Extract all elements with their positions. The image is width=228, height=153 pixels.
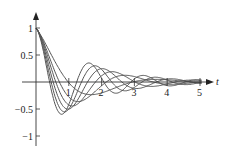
y-tick-label: −1 <box>22 131 33 142</box>
x-axis-label: t <box>216 76 219 87</box>
x-tick-label: 5 <box>197 87 202 98</box>
series-line <box>36 28 202 102</box>
damped-oscillation-chart: t 12345 10.5−0.5−1 <box>0 0 228 153</box>
curve-group <box>36 28 202 114</box>
x-tick-label: 1 <box>66 87 71 98</box>
y-tick-label: −0.5 <box>15 104 33 115</box>
x-tick-label: 3 <box>131 87 136 98</box>
series-line <box>36 28 202 106</box>
y-axis-arrow-icon <box>33 12 39 20</box>
y-tick-label: 0.5 <box>21 50 34 61</box>
series-line <box>36 28 202 112</box>
x-tick-label: 4 <box>164 87 169 98</box>
y-tick-label: 1 <box>28 23 33 34</box>
x-axis-arrow-icon <box>206 79 214 85</box>
x-tick-label: 2 <box>99 87 104 98</box>
series-line <box>36 28 202 109</box>
